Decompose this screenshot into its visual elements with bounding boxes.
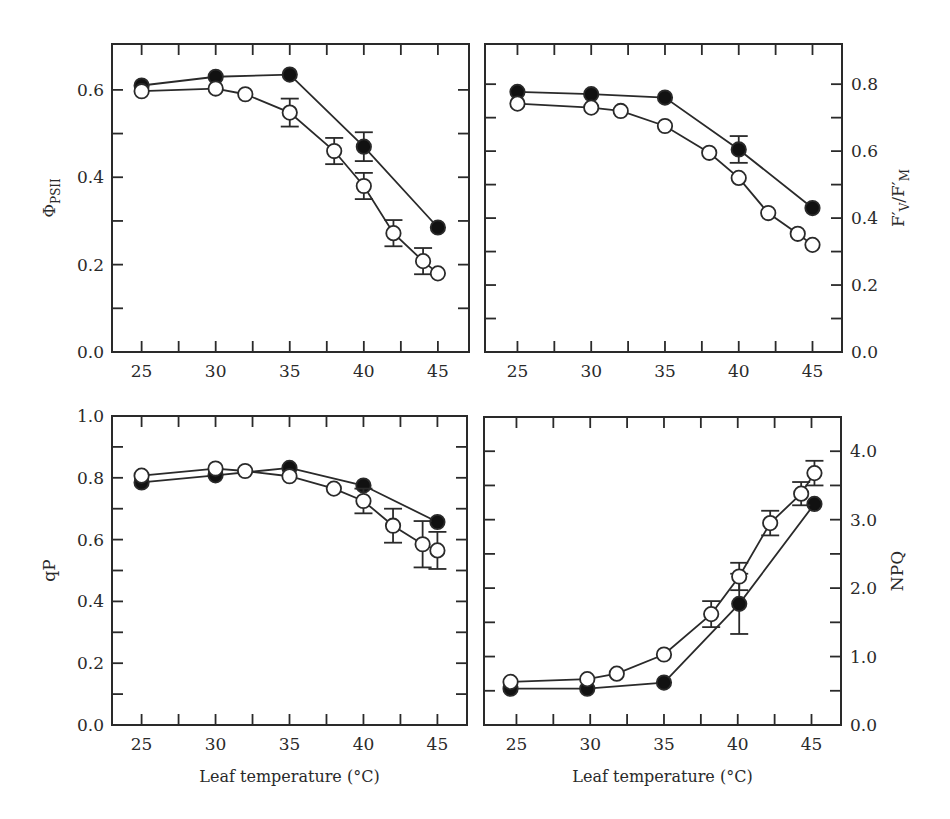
- open-circle-marker: [356, 494, 370, 508]
- open-circle-marker: [283, 105, 297, 119]
- open-circle-marker: [357, 179, 371, 193]
- x-axis: 2530354045Leaf temperature (°C): [506, 417, 823, 786]
- x-tick-label: 30: [205, 734, 227, 754]
- open-circle-marker: [658, 119, 672, 133]
- x-tick-label: 45: [427, 361, 449, 381]
- y-tick-label: 0.2: [77, 653, 104, 673]
- x-tick-label: 30: [580, 361, 602, 381]
- open-circle-marker: [134, 84, 148, 98]
- open-circle-marker: [208, 81, 222, 95]
- x-tick-label: 30: [579, 734, 601, 754]
- y-tick-label: 1.0: [77, 406, 104, 426]
- y-tick-label: 0.2: [851, 275, 878, 295]
- open-circle-marker: [732, 171, 746, 185]
- x-tick-label: 40: [353, 734, 375, 754]
- y-tick-label: 0.6: [851, 141, 878, 161]
- filled-circle-marker: [807, 497, 821, 511]
- open-circle-marker: [510, 96, 524, 110]
- open-circle-marker: [386, 226, 400, 240]
- open-circle-marker: [761, 206, 775, 220]
- y-tick-label: 3.0: [850, 510, 877, 530]
- series-open: [510, 96, 819, 252]
- y-axis-title: NPQ: [887, 551, 907, 591]
- series-open: [503, 461, 823, 689]
- x-tick-label: 25: [131, 734, 153, 754]
- open-circle-marker: [503, 675, 517, 689]
- open-circle-marker: [702, 146, 716, 160]
- chart-canvas: 25303540450.00.20.40.6ΦPSII 25303540450.…: [0, 0, 950, 819]
- y-tick-label: 0.4: [77, 591, 104, 611]
- y-tick-label: 0.0: [851, 342, 878, 362]
- x-tick-label: 40: [353, 361, 375, 381]
- series-filled: [134, 67, 445, 234]
- open-circle-marker: [732, 569, 746, 583]
- y-tick-label: 0.0: [77, 342, 104, 362]
- x-axis-title: Leaf temperature (°C): [572, 767, 752, 786]
- y-axis: 0.00.20.40.60.81.0qP: [39, 406, 467, 735]
- x-tick-label: 45: [427, 734, 449, 754]
- x-axis-title: Leaf temperature (°C): [199, 767, 379, 786]
- x-tick-label: 25: [507, 361, 529, 381]
- open-circle-marker: [794, 486, 808, 500]
- open-circle-marker: [610, 666, 624, 680]
- filled-circle-marker: [658, 90, 672, 104]
- open-circle-marker: [238, 87, 252, 101]
- open-circle-marker: [704, 607, 718, 621]
- y-tick-label: 0.0: [77, 715, 104, 735]
- series-filled: [510, 85, 819, 216]
- open-circle-marker: [430, 543, 444, 557]
- panel-phi-psii: 25303540450.00.20.40.6ΦPSII: [39, 44, 469, 381]
- y-axis-title: ΦPSII: [39, 178, 63, 218]
- x-tick-label: 40: [728, 361, 750, 381]
- panel-npq: 2530354045Leaf temperature (°C)0.01.02.0…: [484, 417, 907, 786]
- y-tick-label: 2.0: [850, 578, 877, 598]
- x-tick-label: 40: [727, 734, 749, 754]
- x-tick-label: 35: [654, 361, 676, 381]
- open-circle-marker: [805, 238, 819, 252]
- x-tick-label: 35: [279, 734, 301, 754]
- filled-circle-marker: [430, 515, 444, 529]
- y-axis: 0.00.20.40.60.8F′V/F′M: [485, 74, 912, 362]
- open-circle-marker: [386, 518, 400, 532]
- open-circle-marker: [416, 254, 430, 268]
- y-tick-label: 4.0: [850, 441, 877, 461]
- panel-fv-fm: 25303540450.00.20.40.60.8F′V/F′M: [485, 44, 912, 381]
- open-circle-marker: [584, 100, 598, 114]
- open-circle-marker: [791, 227, 805, 241]
- y-tick-label: 0.2: [77, 255, 104, 275]
- open-circle-marker: [763, 516, 777, 530]
- filled-circle-marker: [805, 201, 819, 215]
- y-axis: 0.00.20.40.6ΦPSII: [39, 80, 469, 362]
- panel-qp: 2530354045Leaf temperature (°C)0.00.20.4…: [39, 406, 467, 786]
- filled-circle-marker: [657, 675, 671, 689]
- x-tick-label: 45: [801, 734, 823, 754]
- x-tick-label: 25: [506, 734, 528, 754]
- open-circle-marker: [580, 672, 594, 686]
- open-circle-marker: [807, 466, 821, 480]
- filled-circle-marker: [431, 220, 445, 234]
- x-tick-label: 25: [131, 361, 153, 381]
- y-tick-label: 0.0: [850, 715, 877, 735]
- x-tick-label: 35: [653, 734, 675, 754]
- open-circle-marker: [208, 461, 222, 475]
- figure-grid: 25303540450.00.20.40.6ΦPSII 25303540450.…: [0, 0, 950, 819]
- series-open: [134, 461, 446, 569]
- x-tick-label: 35: [279, 361, 301, 381]
- open-circle-marker: [431, 266, 445, 280]
- open-circle-marker: [327, 481, 341, 495]
- open-circle-marker: [614, 104, 628, 118]
- x-axis: 2530354045: [131, 44, 449, 381]
- y-tick-label: 0.8: [77, 468, 104, 488]
- y-tick-label: 0.8: [851, 74, 878, 94]
- series-open: [134, 81, 445, 280]
- series-line-filled: [142, 75, 438, 228]
- y-axis-title: F′V/F′M: [888, 169, 912, 227]
- filled-circle-marker: [357, 139, 371, 153]
- filled-circle-marker: [732, 142, 746, 156]
- y-tick-label: 1.0: [850, 647, 877, 667]
- y-axis: 0.01.02.03.04.0NPQ: [484, 441, 907, 735]
- open-circle-marker: [327, 144, 341, 158]
- open-circle-marker: [238, 464, 252, 478]
- open-circle-marker: [134, 468, 148, 482]
- x-tick-label: 45: [802, 361, 824, 381]
